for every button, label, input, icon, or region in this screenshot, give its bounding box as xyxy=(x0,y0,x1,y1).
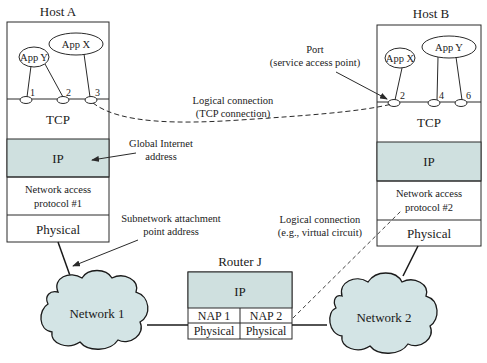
protocol-architecture-diagram: Host A App Y App X 1 2 3 TCP IP Network … xyxy=(0,0,487,363)
host-b-nap-label-2: protocol #2 xyxy=(405,202,453,213)
host-a-title: Host A xyxy=(40,4,77,19)
router-j: Router J IP NAP 1 NAP 2 Physical Physica… xyxy=(188,254,292,339)
host-b-port-2 xyxy=(388,100,400,107)
host-a-nap-label-1: Network access xyxy=(25,184,91,195)
network-1-label: Network 1 xyxy=(69,306,124,321)
host-b-title: Host B xyxy=(413,6,450,21)
host-a-tcp-label: TCP xyxy=(46,112,70,127)
tcp-connection-label-2: (TCP connection) xyxy=(196,108,271,120)
host-a-ip-label: IP xyxy=(52,151,64,166)
host-b-nap-label-1: Network access xyxy=(396,188,462,199)
tcp-connection-label-1: Logical connection xyxy=(193,95,275,106)
host-a: Host A App Y App X 1 2 3 TCP IP Network … xyxy=(7,4,109,242)
router-physical1-label: Physical xyxy=(194,324,235,338)
host-b: Host B App X App Y 2 4 6 TCP IP Network … xyxy=(377,6,481,246)
host-b-physical-label: Physical xyxy=(407,226,451,241)
port-label-2: (service access point) xyxy=(270,57,361,69)
host-a-port-1-label: 1 xyxy=(30,87,35,98)
network-1-cloud: Network 1 xyxy=(41,271,148,350)
host-b-port-2-label: 2 xyxy=(400,90,405,101)
subnet-address-label-2: point address xyxy=(143,226,199,237)
host-a-app-y-label: App Y xyxy=(20,52,48,63)
router-ip-label: IP xyxy=(234,284,246,299)
port-label-1: Port xyxy=(306,44,324,55)
network-2-cloud: Network 2 xyxy=(330,273,437,353)
subnet-address-arrow xyxy=(73,240,138,266)
router-nap1-label: NAP 1 xyxy=(198,309,231,323)
global-address-label-2: address xyxy=(145,151,177,162)
global-address-label-1: Global Internet xyxy=(129,138,193,149)
vc-label-2: (e.g., virtual circuit) xyxy=(278,227,363,239)
vc-label-1: Logical connection xyxy=(280,214,362,225)
host-b-tcp-label: TCP xyxy=(417,115,441,130)
host-a-nap-label-2: protocol #1 xyxy=(34,198,82,209)
host-b-ip-label: IP xyxy=(423,154,435,169)
host-b-port-6-label: 6 xyxy=(466,90,471,101)
subnet-address-label-1: Subnetwork attachment xyxy=(121,213,221,224)
network-2-label: Network 2 xyxy=(356,310,411,325)
router-nap2-label: NAP 2 xyxy=(250,309,283,323)
host-a-port-2-label: 2 xyxy=(66,87,71,98)
host-a-app-x-label: App X xyxy=(62,39,91,50)
host-b-app-y-label: App Y xyxy=(435,42,463,53)
host-b-app-x-label: App X xyxy=(386,53,415,64)
host-b-port-4-label: 4 xyxy=(439,90,444,101)
host-a-port-3-label: 3 xyxy=(95,87,100,98)
host-b-to-network2-link xyxy=(403,246,418,276)
router-title: Router J xyxy=(218,254,262,269)
host-a-physical-label: Physical xyxy=(36,222,80,237)
router-physical2-label: Physical xyxy=(246,324,287,338)
